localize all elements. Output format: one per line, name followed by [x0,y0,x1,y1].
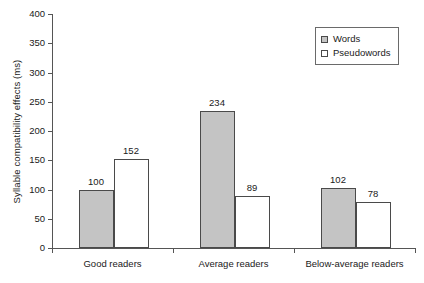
y-axis-tick-label: 50 [34,214,45,224]
y-axis-label: Syllable compatibility effects (ms) [11,22,22,242]
legend-label: Pseudowords [333,48,391,58]
y-axis-tick-label: 200 [29,126,45,136]
legend-label: Words [333,34,360,44]
bar-pseudowords [235,196,270,248]
y-axis-tick-label: 0 [40,243,45,253]
y-axis-tick-label: 150 [29,156,45,166]
legend-swatch-words [321,36,328,43]
y-axis-tick-label: 350 [29,39,45,49]
bar-words [200,111,235,248]
bar-value-label: 234 [194,98,241,108]
x-axis-group-label: Below-average readers [284,258,424,269]
x-axis-tick [52,248,53,253]
bar-pseudowords [356,202,391,248]
chart-legend: WordsPseudowords [315,27,399,65]
x-axis-tick [415,248,416,253]
bar-value-label: 78 [350,189,397,199]
y-axis-tick-label: 300 [29,68,45,78]
x-axis-tick [294,248,295,253]
y-axis-tick-label: 100 [29,185,45,195]
legend-item: Words [321,32,391,46]
legend-item: Pseudowords [321,46,391,60]
bar-chart-figure: Syllable compatibility effects (ms) 0501… [0,0,424,283]
bar-value-label: 152 [108,146,155,156]
x-axis-line [52,248,415,249]
y-axis-tick-label: 250 [29,97,45,107]
bar-value-label: 89 [229,183,276,193]
x-axis-group-label: Good readers [42,258,183,269]
x-axis-tick [173,248,174,253]
y-axis-tick-label: 400 [29,9,45,19]
bar-pseudowords [114,159,149,248]
x-axis-group-label: Average readers [163,258,304,269]
bar-value-label: 102 [315,175,362,185]
bar-value-label: 100 [73,177,120,187]
bar-words [79,190,114,249]
legend-swatch-pseudowords [321,50,328,57]
